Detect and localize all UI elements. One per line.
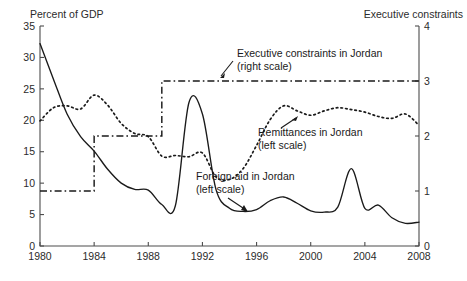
y2-tick-label: 2 [424, 130, 430, 142]
x-tick-label: 2000 [299, 250, 323, 262]
x-tick-label: 1996 [245, 250, 269, 262]
y-tick-label: 25 [23, 83, 35, 95]
annotation-remittances-label-line2: (left scale) [258, 139, 306, 151]
y-tick-label: 15 [23, 145, 35, 157]
annotation-remittances: Remittances in Jordan (left scale) [258, 116, 363, 151]
y2-axis-title: Executive constraints [364, 8, 463, 20]
y-axis-title: Percent of GDP [30, 8, 104, 20]
annotation-exec-leader [221, 61, 233, 76]
x-tick-label: 1992 [191, 250, 215, 262]
y-tick-label: 10 [23, 177, 35, 189]
y-tick-label: 30 [23, 51, 35, 63]
y-tick-label: 20 [23, 114, 35, 126]
y-axis-ticks: 05101520253035 [23, 20, 44, 252]
y2-tick-label: 3 [424, 75, 430, 87]
axis-titles: Percent of GDP Executive constraints [30, 8, 463, 20]
chart-canvas: Percent of GDP Executive constraints 051… [0, 0, 467, 281]
y2-tick-label: 4 [424, 20, 430, 32]
annotation-exec-label-line1: Executive constraints in Jordan [237, 47, 382, 59]
x-tick-label: 1980 [28, 250, 52, 262]
annotation-executive-constraints: Executive constraints in Jordan (right s… [220, 47, 382, 78]
annotation-aid-label-line2: (left scale) [196, 183, 244, 195]
y-tick-label: 5 [29, 208, 35, 220]
x-tick-label: 1984 [82, 250, 106, 262]
y2-axis-ticks: 01234 [415, 20, 430, 252]
annotation-remittances-label-line1: Remittances in Jordan [258, 126, 363, 138]
annotation-exec-label-line2: (right scale) [237, 60, 292, 72]
y-tick-label: 35 [23, 20, 35, 32]
annotation-aid-label-line1: Foreign aid in Jordan [196, 170, 295, 182]
x-tick-label: 2004 [353, 250, 377, 262]
x-tick-label: 2008 [407, 250, 431, 262]
y2-tick-label: 1 [424, 185, 430, 197]
chart-figure: Percent of GDP Executive constraints 051… [0, 0, 467, 281]
x-tick-label: 1988 [137, 250, 161, 262]
x-axis-ticks: 19801984198819921996200020042008 [28, 242, 431, 262]
annotation-foreign-aid: Foreign aid in Jordan (left scale) [196, 170, 295, 212]
